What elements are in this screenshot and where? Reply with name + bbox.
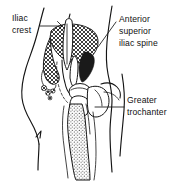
anatomy-figure: Iliac crest Anterior superior iliac spin… — [0, 0, 194, 184]
label-greater-trochanter-line1: Greater — [127, 95, 157, 105]
label-iliac-crest-line2: crest — [12, 25, 32, 35]
anatomy-illustration: Iliac crest Anterior superior iliac spin… — [0, 0, 194, 184]
label-asis-line3: iliac spine — [119, 38, 158, 48]
label-greater-trochanter-line2: trochanter — [127, 107, 167, 117]
label-asis-line1: Anterior — [119, 14, 150, 24]
label-iliac-crest-line1: Iliac — [12, 13, 28, 23]
label-asis-line2: superior — [119, 26, 151, 36]
